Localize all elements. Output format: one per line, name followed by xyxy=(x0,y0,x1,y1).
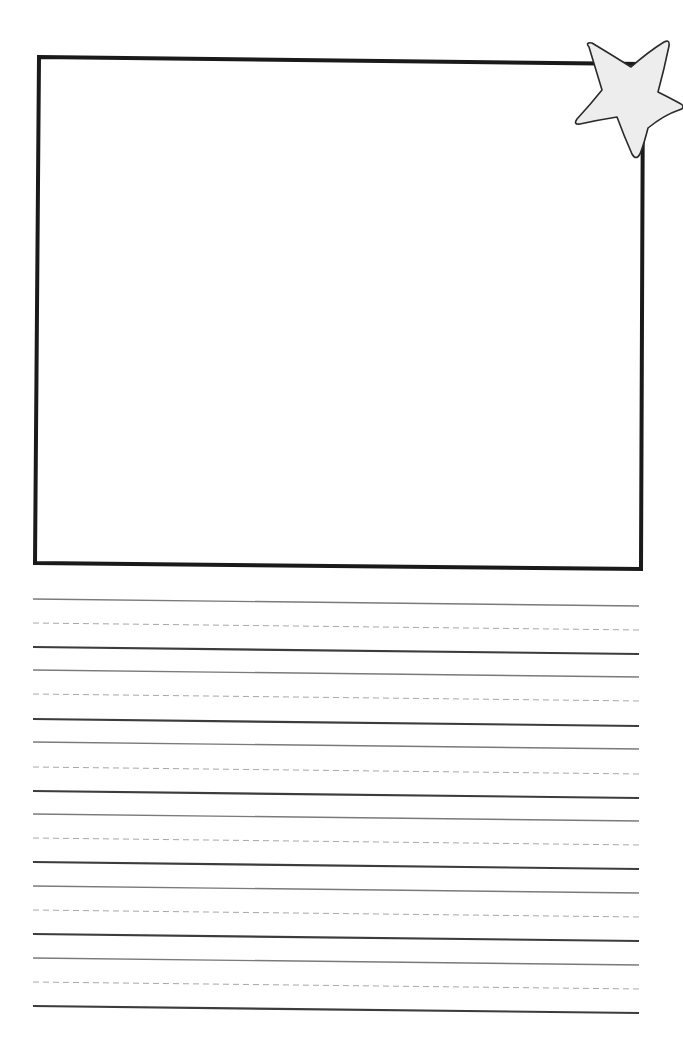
handwriting-lines xyxy=(33,599,639,1013)
midline-dashed xyxy=(33,694,639,701)
midline-dashed xyxy=(33,767,639,774)
midline-dashed xyxy=(33,910,639,917)
top-line xyxy=(33,742,639,749)
top-line xyxy=(33,886,639,893)
worksheet-canvas xyxy=(0,0,683,1037)
baseline xyxy=(33,1006,639,1013)
midline-dashed xyxy=(33,838,639,845)
top-line xyxy=(33,814,639,821)
baseline xyxy=(33,791,639,798)
drawing-box[interactable] xyxy=(35,57,643,569)
baseline xyxy=(33,862,639,869)
writing-line-group[interactable] xyxy=(33,670,639,726)
writing-line-group[interactable] xyxy=(33,886,639,941)
midline-dashed xyxy=(33,623,639,630)
baseline xyxy=(33,719,639,726)
writing-line-group[interactable] xyxy=(33,814,639,869)
baseline xyxy=(33,647,639,654)
baseline xyxy=(33,934,639,941)
top-line xyxy=(33,599,639,606)
top-line xyxy=(33,670,639,677)
worksheet-page xyxy=(0,0,683,1037)
writing-line-group[interactable] xyxy=(33,599,639,654)
writing-line-group[interactable] xyxy=(33,958,639,1013)
midline-dashed xyxy=(33,982,639,989)
top-line xyxy=(33,958,639,965)
writing-line-group[interactable] xyxy=(33,742,639,798)
